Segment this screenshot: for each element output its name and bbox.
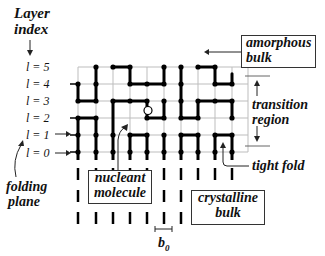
chain-node xyxy=(93,132,98,137)
tight-fold-arrow xyxy=(223,145,249,166)
chain-node xyxy=(161,115,166,120)
layer-label-2: l = 2 xyxy=(26,112,49,124)
chain-node xyxy=(75,115,80,120)
chain-node xyxy=(75,98,80,103)
chain-node xyxy=(161,149,166,154)
folding-plane-label-line2: plane xyxy=(8,195,40,209)
chain-node xyxy=(195,132,200,137)
chain-node xyxy=(75,149,80,154)
chain-node xyxy=(127,132,132,137)
chain-node xyxy=(110,64,115,69)
chain-node xyxy=(161,81,166,86)
amorphous-bulk-box: amorphous bulk xyxy=(241,35,316,68)
arrow-head-icon xyxy=(27,50,33,56)
layer-label-4: l = 4 xyxy=(26,78,49,90)
chain-node xyxy=(212,132,217,137)
chain-node xyxy=(178,98,183,103)
chain-node xyxy=(195,149,200,154)
chain-node xyxy=(195,64,200,69)
tight-fold-label: tight fold xyxy=(252,159,305,173)
chain-node xyxy=(178,81,183,86)
chain-node xyxy=(161,132,166,137)
folding-plane-arrow xyxy=(15,145,21,177)
chain-node xyxy=(195,115,200,120)
layer-label-0: l = 0 xyxy=(26,147,49,159)
arrow-head-icon xyxy=(254,80,260,86)
nucleant-molecule-line2: molecule xyxy=(89,186,151,201)
layer-label-5: l = 5 xyxy=(26,61,49,73)
chain-node xyxy=(212,98,217,103)
chain-node xyxy=(110,132,115,137)
chain-node xyxy=(212,64,217,69)
chain-node xyxy=(127,98,132,103)
chain-node xyxy=(212,81,217,86)
layer-index-label-line2: index xyxy=(14,22,48,37)
chain-nodes xyxy=(75,64,234,154)
crystalline-bulk-line1: crystalline xyxy=(192,191,264,206)
arrow-head-icon xyxy=(204,49,209,55)
chain-node xyxy=(229,149,234,154)
chain-node xyxy=(93,81,98,86)
chain-node xyxy=(212,149,217,154)
chain-node xyxy=(178,149,183,154)
arrow-head-icon xyxy=(220,142,226,148)
chain-node xyxy=(178,64,183,69)
chain-node xyxy=(144,115,149,120)
arrow-head-icon xyxy=(66,131,71,137)
chain-node xyxy=(144,98,149,103)
chain-node xyxy=(93,149,98,154)
chain-node xyxy=(110,149,115,154)
chain-node xyxy=(75,81,80,86)
crystalline-bulk-box: crystalline bulk xyxy=(191,190,265,225)
lattice-spacing-symbol: b xyxy=(158,235,165,250)
chain-node xyxy=(229,115,234,120)
nucleant-molecule-icon xyxy=(144,107,152,115)
chain-node xyxy=(127,64,132,69)
chain-node xyxy=(229,132,234,137)
chain-node xyxy=(144,132,149,137)
amorphous-bulk-line2: bulk xyxy=(246,51,315,66)
lattice-spacing-label: b0 xyxy=(158,236,170,253)
chain-node xyxy=(127,81,132,86)
arrow-head-icon xyxy=(18,140,24,146)
chain-node xyxy=(75,132,80,137)
chain-node xyxy=(229,81,234,86)
chain-node xyxy=(195,98,200,103)
chain-node xyxy=(161,64,166,69)
layer-index-label-line1: Layer xyxy=(14,6,50,21)
lattice-spacing-subscript: 0 xyxy=(165,243,170,253)
arrow-head-icon xyxy=(254,136,260,142)
chain-node xyxy=(229,98,234,103)
chain-node xyxy=(144,149,149,154)
chain-node xyxy=(93,98,98,103)
arrow-head-icon xyxy=(66,150,71,156)
transition-region-line2: region xyxy=(252,113,289,127)
chain-node xyxy=(161,98,166,103)
amorphous-bulk-line1: amorphous xyxy=(246,36,315,51)
layer-label-3: l = 3 xyxy=(26,95,49,107)
folding-plane-label-line1: folding xyxy=(6,180,47,194)
nucleant-molecule-box: nucleant molecule xyxy=(88,170,152,204)
transition-region-line1: transition xyxy=(252,98,308,112)
chain-node xyxy=(110,98,115,103)
chain-node xyxy=(178,115,183,120)
crystalline-bulk-line2: bulk xyxy=(192,206,264,221)
chain-node xyxy=(178,132,183,137)
layer-label-1: l = 1 xyxy=(26,129,49,141)
nucleant-molecule-line1: nucleant xyxy=(89,171,151,186)
chain-node xyxy=(127,149,132,154)
chain-node xyxy=(93,115,98,120)
chain-node xyxy=(144,81,149,86)
chain-node xyxy=(93,64,98,69)
